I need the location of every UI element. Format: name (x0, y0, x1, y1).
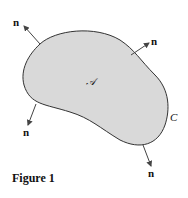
normal-label-bottom-right: n (148, 168, 154, 179)
region-shape (23, 31, 168, 145)
normal-arrow-bottom-right (143, 145, 151, 166)
normal-label-bottom-left: n (23, 127, 29, 138)
normal-label-top-left: n (13, 17, 19, 28)
figure-caption: Figure 1 (12, 172, 55, 184)
curve-label: C (170, 112, 177, 123)
normal-arrow-bottom-left (28, 104, 36, 125)
normal-arrow-top-left (24, 26, 40, 44)
normal-label-top-right: n (151, 36, 157, 47)
region-diagram (0, 0, 188, 198)
region-label: 𝒜 (86, 77, 95, 87)
normal-arrow-top-right (131, 43, 149, 55)
